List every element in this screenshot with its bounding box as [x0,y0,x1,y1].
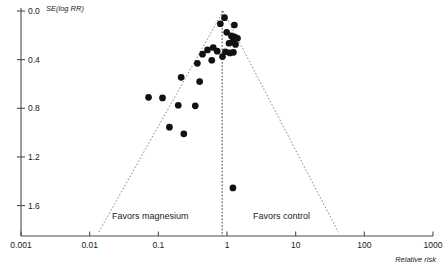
funnel-plot-svg: 0.0010.010.111010010000.00.40.81.21.6SE(… [0,0,446,270]
funnel-region [99,11,339,236]
data-point [175,102,182,109]
data-point [180,130,187,137]
data-point [192,103,199,110]
data-point [219,53,226,60]
y-tick-label: 0.4 [28,55,40,65]
x-tick-label: 0.01 [81,240,98,250]
data-point [231,22,238,29]
x-tick-label: 1 [225,240,230,250]
x-tick-label: 0.1 [152,240,164,250]
data-point [230,49,237,56]
data-point [145,94,152,101]
y-tick-label: 1.6 [28,201,40,211]
data-point [226,40,233,47]
y-tick-label: 0.8 [28,103,40,113]
data-point [196,78,203,85]
data-point [232,41,239,48]
data-point [214,48,221,55]
data-point [166,124,173,131]
data-point [208,57,215,64]
axes-layer [17,8,433,236]
x-axis-title: Relative risk [395,255,437,264]
x-tick-label: 0.001 [10,240,32,250]
data-point [221,14,228,21]
data-points-layer [145,14,241,191]
favors-control-label: Favors control [253,211,310,221]
data-point [159,95,166,102]
x-tick-label: 100 [357,240,371,250]
y-axis-title: SE(log RR) [46,4,84,13]
y-tick-label: 1.2 [28,152,40,162]
x-tick-label: 1000 [424,240,443,250]
y-tick-label: 0.0 [28,6,40,16]
favors-magnesium-label: Favors magnesium [112,211,189,221]
data-point [194,60,201,67]
data-point [230,185,237,192]
data-point [217,20,224,27]
funnel-plot: 0.0010.010.111010010000.00.40.81.21.6SE(… [0,0,446,270]
x-tick-label: 10 [291,240,301,250]
data-point [178,74,185,81]
funnel-right-leg [223,11,338,232]
funnel-left-leg [99,11,224,232]
data-point [199,51,206,58]
